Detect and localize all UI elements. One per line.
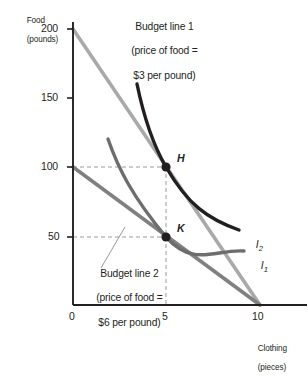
data-point-h (161, 162, 170, 171)
y-tick-label-50: 50 (48, 230, 59, 242)
point-label-h: H (177, 152, 185, 165)
x-axis-title-line1: Clothing (258, 344, 287, 353)
point-label-k: K (177, 222, 185, 235)
budget-line-2-annotation-line3: $6 per pound) (98, 317, 160, 328)
y-axis-title-line2: (pounds) (27, 35, 59, 44)
budget-line-1-annotation-line2: (price of food = (131, 45, 198, 56)
budget-line-1-annotation-line1: Budget line 1 (135, 21, 193, 32)
budget-line-1-annotation: Budget line 1 (price of food = $3 per po… (97, 9, 221, 94)
indifference-curve-i2 (137, 84, 239, 230)
budget-line-2-annotation: Budget line 2 (price of food = $6 per po… (62, 256, 186, 341)
x-axis-title-line2: (pieces) (258, 363, 286, 372)
x-axis-title: Clothing (pieces) (249, 334, 287, 376)
curve-label-i1: I1 (249, 246, 268, 287)
data-point-k (161, 232, 170, 241)
budget-line-1-annotation-line3: $3 per pound) (133, 70, 195, 81)
y-tick-label-150: 150 (41, 91, 58, 103)
x-tick-label-10: 10 (252, 310, 263, 322)
y-tick-label-100: 100 (41, 160, 58, 172)
y-tick-label-200: 200 (41, 22, 58, 34)
budget-line-2-annotation-line1: Budget line 2 (100, 268, 158, 279)
budget-line-2-annotation-line2: (price of food = (96, 292, 163, 303)
indifference-curve-i1 (108, 139, 244, 255)
curve-label-i1-sub: 1 (264, 265, 268, 274)
